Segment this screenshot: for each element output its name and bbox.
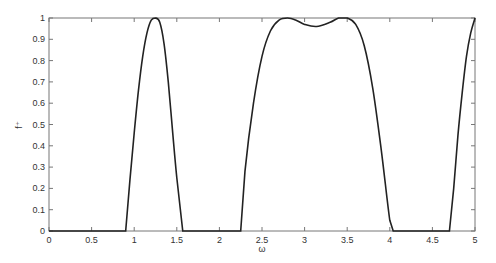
- y-axis-ticks: 00.10.20.30.40.50.60.70.80.91: [32, 13, 475, 236]
- y-tick-label: 0: [40, 226, 45, 236]
- x-tick-label: 0.5: [85, 235, 98, 245]
- x-tick-label: 1.5: [171, 235, 184, 245]
- x-tick-label: 4: [387, 235, 392, 245]
- y-tick-label: 0.7: [32, 77, 45, 87]
- y-tick-label: 0.6: [32, 98, 45, 108]
- y-tick-label: 0.5: [32, 120, 45, 130]
- x-tick-label: 1: [132, 235, 137, 245]
- series-line: [49, 18, 475, 231]
- x-tick-label: 0: [46, 235, 51, 245]
- line-chart: 00.511.522.533.544.55 00.10.20.30.40.50.…: [0, 0, 496, 263]
- x-axis-ticks: 00.511.522.533.544.55: [46, 18, 477, 245]
- y-axis-label: f⁺: [14, 121, 24, 129]
- x-tick-label: 3: [302, 235, 307, 245]
- y-tick-label: 0.9: [32, 34, 45, 44]
- x-tick-label: 3.5: [341, 235, 354, 245]
- plot-border: [49, 18, 475, 231]
- x-tick-label: 4.5: [426, 235, 439, 245]
- y-tick-label: 1: [40, 13, 45, 23]
- x-tick-label: 2: [217, 235, 222, 245]
- x-tick-label: 5: [472, 235, 477, 245]
- y-tick-label: 0.3: [32, 162, 45, 172]
- y-tick-label: 0.8: [32, 56, 45, 66]
- x-axis-label: ω: [258, 244, 265, 254]
- y-tick-label: 0.2: [32, 183, 45, 193]
- plot-frame: [49, 18, 475, 231]
- y-tick-label: 0.4: [32, 141, 45, 151]
- y-tick-label: 0.1: [32, 205, 45, 215]
